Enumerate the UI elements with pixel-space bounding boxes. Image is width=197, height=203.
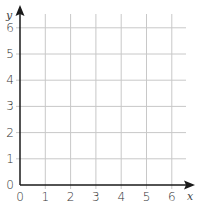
x-tick-label: 5 <box>143 190 151 203</box>
y-tick-label: 3 <box>6 99 14 113</box>
y-tick-label: 4 <box>6 73 14 87</box>
x-axis-label: x <box>187 190 194 203</box>
x-tick-label: 3 <box>92 190 100 203</box>
y-tick-label: 1 <box>6 152 14 166</box>
axes <box>16 5 196 190</box>
coordinate-grid: 0123456 0123456 x y <box>0 0 197 203</box>
y-tick-label: 6 <box>6 21 14 35</box>
x-tick-label: 2 <box>67 190 75 203</box>
y-tick-label: 5 <box>6 47 14 61</box>
x-tick-label: 0 <box>16 190 24 203</box>
y-tick-label: 2 <box>6 126 14 140</box>
grid-lines <box>16 14 186 189</box>
x-tick-label: 4 <box>117 190 125 203</box>
y-tick-labels: 0123456 <box>6 21 14 192</box>
y-axis-label: y <box>5 9 13 22</box>
y-tick-label: 0 <box>6 178 14 192</box>
x-tick-label: 6 <box>168 190 176 203</box>
x-tick-label: 1 <box>41 190 49 203</box>
x-tick-labels: 0123456 <box>16 190 175 203</box>
